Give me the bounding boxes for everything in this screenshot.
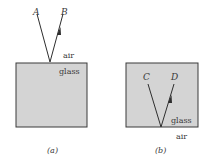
medium-label-glass: glass [59,67,80,76]
medium-label-air: air [176,132,187,141]
ray-label-b: B [60,7,68,17]
medium-label-glass: glass [171,116,192,125]
caption-a: (a) [47,146,58,155]
ray-a-incident [37,14,50,62]
diagram-canvas: A B air glass (a) C D glass air (b) [0,0,219,165]
ray-label-d: D [170,72,178,82]
ray-label-a: A [32,7,40,17]
ray-label-c: C [143,72,150,82]
figure-a: A B air glass (a) [16,7,87,155]
medium-label-air: air [63,51,74,60]
caption-b: (b) [155,146,166,155]
ray-b-reflected [50,14,63,62]
figure-b: C D glass air (b) [126,63,198,155]
